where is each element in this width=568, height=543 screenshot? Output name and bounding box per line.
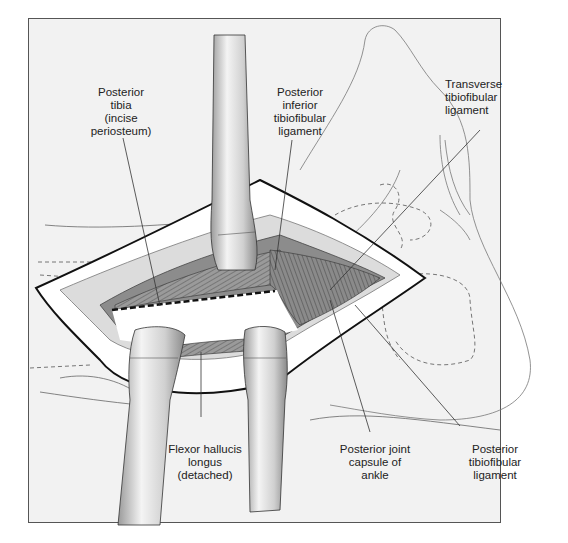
lower-right-retractor (243, 326, 287, 512)
label-posterior-inferior-tibiofibular-ligament: Posterior inferior tibiofibular ligament (255, 86, 345, 138)
label-transverse-tibiofibular-ligament: Transverse tibiofibular ligament (445, 78, 535, 117)
label-flexor-hallucis-longus: Flexor hallucis longus (detached) (155, 443, 255, 482)
label-posterior-tibia: Posterior tibia (incise periosteum) (76, 86, 166, 138)
upper-retractor (211, 35, 257, 270)
label-posterior-joint-capsule: Posterior joint capsule of ankle (325, 443, 425, 482)
label-posterior-tibiofibular-ligament: Posterior tibiofibular ligament (450, 443, 540, 482)
